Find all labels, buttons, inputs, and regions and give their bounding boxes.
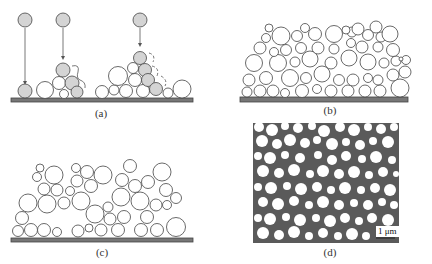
substrate-c [11, 238, 193, 242]
panel-label-b: (b) [315, 104, 345, 116]
panel-label-d: (d) [315, 246, 345, 258]
panel-b [240, 21, 411, 102]
panel-a [11, 13, 193, 102]
figure-canvas [0, 0, 432, 264]
scale-bar-label: 1 μm [376, 226, 399, 237]
substrate-b [240, 97, 408, 102]
panel-label-c: (c) [87, 246, 117, 258]
panel-label-a: (a) [86, 107, 116, 119]
panel-d-micrograph [253, 122, 399, 243]
panel-c [11, 160, 193, 243]
